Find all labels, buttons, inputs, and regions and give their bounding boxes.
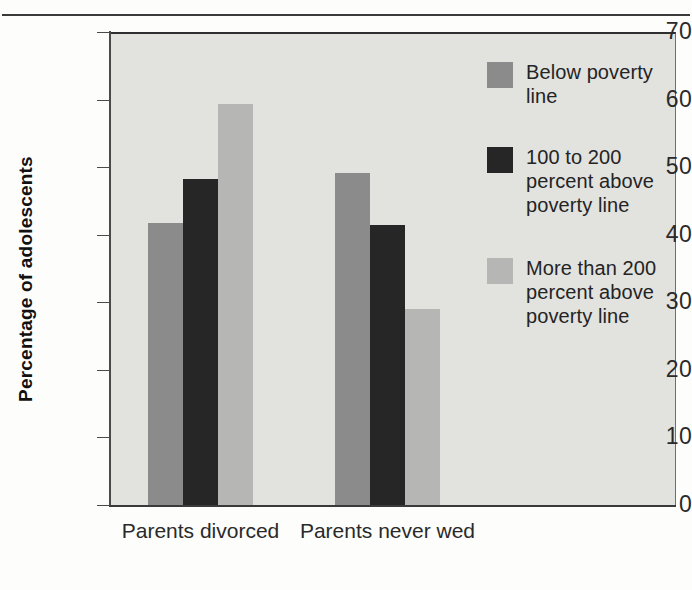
y-axis-tick-mark xyxy=(97,235,110,236)
legend-label-1: 100 to 200 percent above poverty line xyxy=(526,145,654,217)
legend-swatch-icon-0 xyxy=(487,62,513,88)
x-axis-line xyxy=(109,505,676,507)
bar-1-2 xyxy=(405,309,440,507)
legend-label-0: Below poverty line xyxy=(526,60,653,108)
y-axis-title: Percentage of adolescents xyxy=(15,99,37,459)
legend-item-1: 100 to 200 percent above poverty line xyxy=(487,145,654,217)
y-axis-tick-label: 70 xyxy=(598,18,692,45)
legend-item-0: Below poverty line xyxy=(487,60,653,108)
y-axis-tick-mark xyxy=(97,32,110,33)
y-axis-tick-mark xyxy=(97,167,110,168)
bar-0-2 xyxy=(218,104,253,507)
y-axis-tick-mark xyxy=(97,437,110,438)
bar-0-1 xyxy=(183,179,218,507)
bar-0-0 xyxy=(148,223,183,507)
y-axis-tick-label: 10 xyxy=(598,423,692,450)
y-axis-tick-mark xyxy=(97,100,110,101)
y-axis-tick-label: 40 xyxy=(598,221,692,248)
y-axis-tick-mark xyxy=(97,505,110,506)
legend-swatch-icon-1 xyxy=(487,147,513,173)
bar-1-0 xyxy=(335,173,370,507)
figure-top-rule xyxy=(2,14,690,16)
y-axis-tick-label: 20 xyxy=(598,356,692,383)
legend-label-2: More than 200 percent above poverty line xyxy=(526,256,656,328)
bar-chart-figure: 706050403020100 Percentage of adolescent… xyxy=(0,0,692,590)
y-axis-line xyxy=(109,31,111,507)
y-axis-tick-mark xyxy=(97,370,110,371)
x-axis-group-label-1: Parents never wed xyxy=(278,518,498,544)
legend-swatch-icon-2 xyxy=(487,258,513,284)
y-axis-tick-mark xyxy=(97,302,110,303)
legend-item-2: More than 200 percent above poverty line xyxy=(487,256,656,328)
y-axis-tick-label: 0 xyxy=(598,491,692,518)
bar-1-1 xyxy=(370,225,405,507)
